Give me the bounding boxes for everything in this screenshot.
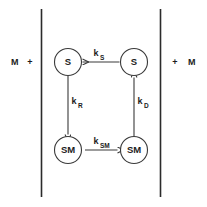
bulk-species-right: M — [188, 57, 196, 67]
diagram-canvas: M + + M S S SM SM k S k R — [0, 0, 207, 207]
rate-left-subscript: R — [78, 102, 83, 109]
reaction-scheme-figure: M + + M S S SM SM k S k R — [0, 0, 207, 207]
rate-right-base: k — [137, 96, 143, 106]
bulk-plus-left: + — [27, 57, 33, 67]
rate-label-top: k S — [93, 48, 105, 61]
node-label-bottom-right: SM — [127, 144, 141, 155]
rate-label-right: k D — [137, 96, 149, 109]
bulk-species-left: M — [11, 57, 19, 67]
node-label-top-right: S — [131, 56, 137, 67]
rate-top-subscript: S — [100, 54, 105, 61]
rate-label-left: k R — [71, 96, 83, 109]
node-label-bottom-left: SM — [61, 144, 75, 155]
rate-bottom-base: k — [93, 136, 99, 146]
rate-top-base: k — [93, 48, 99, 58]
rate-label-bottom: k SM — [93, 136, 109, 149]
node-label-top-left: S — [65, 56, 71, 67]
bulk-plus-right: + — [172, 57, 178, 67]
rate-right-subscript: D — [144, 102, 149, 109]
rate-left-base: k — [71, 96, 77, 106]
rate-bottom-subscript: SM — [100, 142, 110, 149]
